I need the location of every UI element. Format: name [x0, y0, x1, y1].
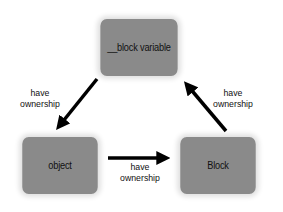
edge-label-line: ownership — [201, 98, 265, 109]
node-block-variable: __block variable — [100, 19, 177, 76]
edge-label-line: have — [201, 87, 265, 98]
edge-label-line: have — [108, 161, 172, 172]
ownership-diagram: __block variable object Block have owner… — [0, 0, 283, 212]
edge-label-line: ownership — [108, 172, 172, 183]
node-label: __block variable — [107, 42, 171, 53]
edge-label-line: have — [8, 87, 72, 98]
node-block: Block — [180, 137, 255, 194]
edge-label-object-to-block: have ownership — [108, 161, 172, 183]
node-label: object — [48, 160, 71, 171]
node-object: object — [22, 137, 97, 194]
edge-label-blockvar-to-object: have ownership — [8, 87, 72, 109]
edge-label-block-to-blockvar: have ownership — [201, 87, 265, 109]
edge-label-line: ownership — [8, 98, 72, 109]
node-label: Block — [207, 160, 229, 171]
